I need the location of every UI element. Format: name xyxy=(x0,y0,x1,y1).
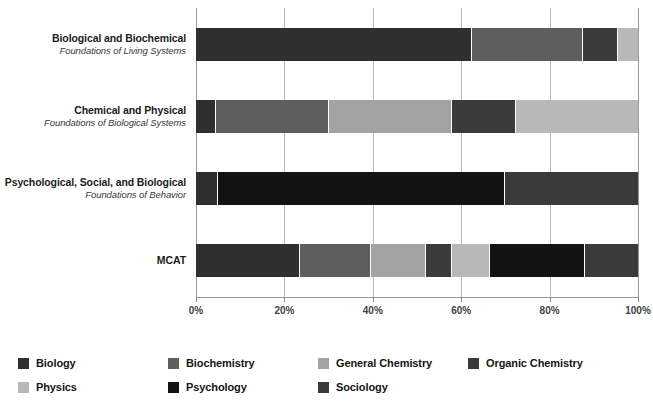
category-label-main: Biological and Biochemical xyxy=(0,32,186,45)
legend-swatch-icon xyxy=(18,358,29,369)
legend-item-physics[interactable]: Physics xyxy=(18,381,77,393)
bar-segment-physics xyxy=(618,28,638,61)
x-tick-label: 40% xyxy=(348,305,398,316)
stacked-bar-chart: 0%20%40%60%80%100% Biological and Bioche… xyxy=(0,0,653,416)
category-label-sub: Foundations of Biological Systems xyxy=(0,117,186,129)
legend-label: General Chemistry xyxy=(336,357,432,369)
plot-area xyxy=(196,8,638,298)
x-tick-label: 100% xyxy=(613,305,653,316)
tick-mark-20 xyxy=(284,297,285,302)
category-label-main: Psychological, Social, and Biological xyxy=(0,176,186,189)
x-tick-label: 20% xyxy=(259,305,309,316)
bar-segment-organic-chemistry xyxy=(452,100,516,133)
bar-segment-physics xyxy=(452,244,490,277)
bar-row xyxy=(196,100,638,133)
bar-segment-biology xyxy=(196,244,300,277)
legend-item-organic-chemistry[interactable]: Organic Chemistry xyxy=(468,357,583,369)
legend-swatch-icon xyxy=(168,358,179,369)
gridline-100 xyxy=(638,8,639,298)
legend-item-psychology[interactable]: Psychology xyxy=(168,381,247,393)
category-label-main: Chemical and Physical xyxy=(0,104,186,117)
bar-segment-organic-chemistry xyxy=(583,28,618,61)
bar-segment-biology xyxy=(196,172,218,205)
bar-segment-psychology xyxy=(490,244,585,277)
bar-segment-biochemistry xyxy=(472,28,583,61)
bar-row xyxy=(196,244,638,277)
legend-label: Biology xyxy=(36,357,76,369)
tick-mark-40 xyxy=(373,297,374,302)
tick-mark-100 xyxy=(638,297,639,302)
legend-item-biochemistry[interactable]: Biochemistry xyxy=(168,357,255,369)
legend-item-sociology[interactable]: Sociology xyxy=(318,381,388,393)
legend-label: Sociology xyxy=(336,381,388,393)
bar-segment-biology xyxy=(196,28,472,61)
category-label-sub: Foundations of Behavior xyxy=(0,189,186,201)
tick-mark-60 xyxy=(461,297,462,302)
bar-row xyxy=(196,28,638,61)
tick-mark-0 xyxy=(196,297,197,302)
legend-label: Psychology xyxy=(186,381,247,393)
x-tick-label: 0% xyxy=(171,305,221,316)
legend-label: Organic Chemistry xyxy=(486,357,583,369)
x-tick-label: 60% xyxy=(436,305,486,316)
bar-segment-biochemistry xyxy=(216,100,329,133)
bar-segment-general-chemistry xyxy=(371,244,426,277)
bar-row xyxy=(196,172,638,205)
legend-label: Physics xyxy=(36,381,77,393)
bar-segment-general-chemistry xyxy=(329,100,453,133)
bar-segment-sociology xyxy=(585,244,638,277)
bar-segment-physics xyxy=(516,100,638,133)
legend-swatch-icon xyxy=(168,382,179,393)
legend-swatch-icon xyxy=(468,358,479,369)
legend-swatch-icon xyxy=(318,358,329,369)
x-tick-label: 80% xyxy=(525,305,575,316)
bar-segment-biology xyxy=(196,100,216,133)
legend-swatch-icon xyxy=(318,382,329,393)
legend-swatch-icon xyxy=(18,382,29,393)
legend-item-general-chemistry[interactable]: General Chemistry xyxy=(318,357,432,369)
chart-legend: BiologyBiochemistryGeneral ChemistryOrga… xyxy=(0,350,653,410)
x-axis-baseline xyxy=(196,297,639,298)
bar-segment-biochemistry xyxy=(300,244,371,277)
tick-mark-80 xyxy=(550,297,551,302)
legend-label: Biochemistry xyxy=(186,357,255,369)
category-label-sub: Foundations of Living Systems xyxy=(0,45,186,57)
bar-segment-sociology xyxy=(505,172,638,205)
bar-segment-psychology xyxy=(218,172,505,205)
bar-segment-organic-chemistry xyxy=(426,244,453,277)
category-label-main: MCAT xyxy=(0,254,186,267)
legend-item-biology[interactable]: Biology xyxy=(18,357,76,369)
